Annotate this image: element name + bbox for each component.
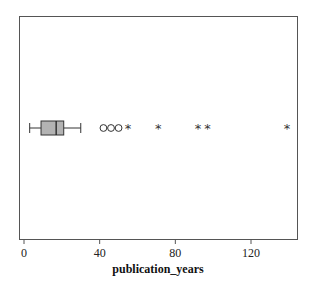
x-tick-label: 40: [94, 246, 106, 260]
x-tick-label: 80: [169, 246, 181, 260]
x-tick-label: 0: [21, 246, 27, 260]
x-tick-label: 120: [242, 246, 260, 260]
boxplot-chart: 04080120 ***** publication_years: [0, 0, 316, 286]
extreme-outlier-star: *: [155, 121, 162, 136]
extreme-outlier-star: *: [284, 121, 291, 136]
iqr-box: [41, 121, 64, 135]
extreme-outlier-star: *: [204, 121, 211, 136]
x-axis-title: publication_years: [112, 262, 204, 276]
extreme-outlier-star: *: [125, 121, 132, 136]
x-axis: 04080120: [21, 240, 260, 261]
extreme-outlier-star: *: [195, 121, 202, 136]
